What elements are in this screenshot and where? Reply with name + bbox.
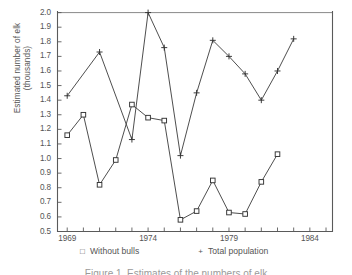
legend-label-total-population: Total population (208, 246, 268, 256)
data-point-marker (113, 158, 118, 163)
x-tick-label: 1974 (131, 234, 165, 243)
y-tick-label: 1.1 (29, 139, 51, 148)
y-tick-label: 1.2 (29, 124, 51, 133)
data-point-marker (258, 97, 264, 103)
data-point-marker (210, 178, 215, 183)
legend-item-total-population: +Total population (196, 246, 268, 256)
y-tick-label: 0.8 (29, 183, 51, 192)
data-point-marker (275, 152, 280, 157)
data-point-marker (81, 112, 86, 117)
y-tick-label: 0.5 (29, 227, 51, 236)
figure-caption: Figure 1. Estimates of the numbers of el… (0, 268, 352, 275)
data-point-marker (129, 137, 135, 143)
y-tick-label: 0.6 (29, 212, 51, 221)
data-point-marker (227, 210, 232, 215)
data-point-marker (162, 118, 167, 123)
data-point-marker (130, 102, 135, 107)
data-point-marker (65, 133, 70, 138)
data-point-marker (194, 90, 200, 96)
data-point-marker (275, 68, 281, 74)
y-tick-label: 2.0 (29, 8, 51, 17)
data-point-marker (243, 212, 248, 217)
data-point-marker (177, 153, 183, 159)
data-point-marker (146, 115, 151, 120)
y-tick-label: 1.0 (29, 154, 51, 163)
data-point-marker (178, 218, 183, 223)
data-point-marker (161, 45, 167, 51)
series-line (67, 105, 277, 220)
y-tick-label: 1.3 (29, 110, 51, 119)
y-tick-label: 1.7 (29, 51, 51, 60)
legend-marker-square: □ (78, 247, 87, 256)
data-point-marker (259, 180, 264, 185)
data-point-marker (97, 183, 102, 188)
y-tick-label: 0.7 (29, 197, 51, 206)
y-tick-label: 1.8 (29, 37, 51, 46)
y-tick-label: 1.9 (29, 22, 51, 31)
legend-item-without-bulls: □Without bulls (78, 246, 139, 256)
series-total-population (64, 10, 296, 159)
legend-label-without-bulls: Without bulls (90, 246, 139, 256)
legend-marker-plus: + (196, 247, 205, 256)
data-point-marker (291, 36, 297, 42)
x-tick-label: 1979 (212, 234, 246, 243)
y-tick-label: 1.4 (29, 95, 51, 104)
y-axis-ticks (58, 13, 62, 232)
y-tick-label: 0.9 (29, 168, 51, 177)
y-tick-label: 1.5 (29, 81, 51, 90)
x-tick-label: 1969 (50, 234, 84, 243)
x-tick-label: 1984 (293, 234, 327, 243)
series-line (67, 13, 293, 156)
data-point-marker (194, 209, 199, 214)
x-axis-ticks (67, 228, 326, 232)
y-tick-label: 1.6 (29, 66, 51, 75)
series-without-bulls (65, 102, 280, 222)
